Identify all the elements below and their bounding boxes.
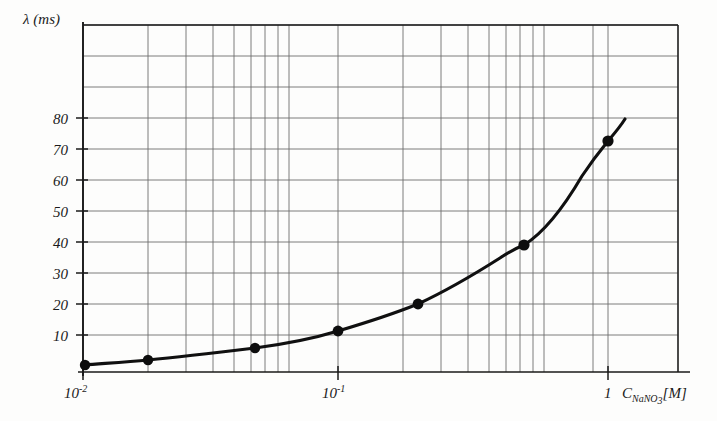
- horizontal-gridlines: [83, 25, 678, 335]
- x-axis-title-text: CNaNO3[M]: [622, 385, 687, 406]
- data-point: [413, 299, 424, 310]
- data-point: [143, 355, 153, 365]
- x-tick-label-1: 1: [604, 385, 612, 401]
- y-tick-label: 50: [53, 204, 69, 220]
- data-point: [602, 135, 613, 146]
- x-axis-title: CNaNO3[M]: [622, 385, 687, 406]
- x-tick-label-1e-2: 10-2: [64, 383, 87, 401]
- axis-spines: [78, 22, 690, 376]
- y-axis-title-text: λ (ms): [22, 11, 60, 28]
- semilog-chart: 80 70 60 50 40 30 20 10 λ (ms) 10-2 10-1…: [0, 0, 717, 421]
- y-tick-label: 70: [53, 142, 69, 158]
- data-point: [518, 239, 529, 250]
- data-point: [333, 326, 344, 337]
- x-tick-label-1e-1: 10-1: [322, 383, 345, 401]
- y-tick-label: 10: [53, 328, 69, 344]
- y-axis-title: λ (ms): [22, 11, 60, 28]
- y-tick-label: 20: [53, 297, 69, 313]
- data-point: [250, 343, 260, 353]
- vertical-gridlines: [83, 25, 678, 372]
- y-tick-label: 80: [53, 111, 69, 127]
- y-tick-label: 60: [53, 173, 69, 189]
- y-axis-ticks: [76, 118, 88, 335]
- y-tick-labels: 80 70 60 50 40 30 20 10: [52, 111, 69, 344]
- y-tick-label: 40: [53, 235, 69, 251]
- figure-canvas: 80 70 60 50 40 30 20 10 λ (ms) 10-2 10-1…: [0, 0, 717, 421]
- x-tick-labels: 10-2 10-1 1: [64, 383, 612, 401]
- y-tick-label: 30: [52, 266, 69, 282]
- x-axis-ticks: [83, 366, 608, 380]
- data-point: [80, 360, 90, 370]
